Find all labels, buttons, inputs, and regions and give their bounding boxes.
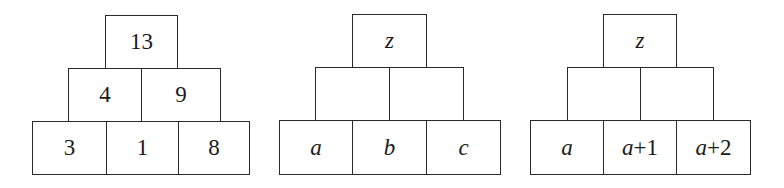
pyramid-bottom-cell-left: a [530,120,604,175]
expr-number: 2 [720,135,732,160]
expr-variable: a [696,135,708,160]
pyramid-top-cell: 13 [105,15,178,69]
pyramid-middle-cell-left: 4 [68,68,142,122]
cell-value: 8 [208,135,220,161]
cell-value: 4 [99,82,111,108]
cell-value: z [385,28,394,54]
cell-value: a [561,135,573,161]
pyramid-top-cell: z [352,14,427,68]
pyramid-middle-cell-left [567,67,641,121]
cell-value: a [310,135,322,161]
cell-value: 13 [130,29,153,55]
pyramid-bottom-cell-middle: b [352,120,427,175]
cell-expression: a+2 [696,135,732,161]
pyramid-middle-cell-right [389,67,464,121]
cell-value: b [384,135,396,161]
expr-operator: + [634,135,647,160]
pyramid-bottom-cell-right: a+2 [676,120,751,175]
pyramid-bottom-cell-middle: 1 [106,121,179,175]
cell-value: 3 [64,135,76,161]
cell-value: c [458,135,468,161]
pyramid-top-cell: z [603,14,677,68]
pyramid-bottom-cell-left: a [279,120,353,175]
expr-number: 1 [646,135,658,160]
expr-variable: a [622,135,634,160]
pyramid-bottom-cell-left: 3 [32,121,107,175]
pyramid-middle-cell-right [640,67,714,121]
pyramid-bottom-cell-middle: a+1 [603,120,677,175]
expr-operator: + [707,135,720,160]
pyramid-middle-cell-left [315,67,390,121]
pyramid-bottom-cell-right: 8 [178,121,250,175]
pyramid-bottom-cell-right: c [426,120,501,175]
cell-expression: a+1 [622,135,658,161]
cell-value: z [636,28,645,54]
cell-value: 9 [175,82,187,108]
pyramid-middle-cell-right: 9 [141,68,221,122]
cell-value: 1 [137,135,149,161]
